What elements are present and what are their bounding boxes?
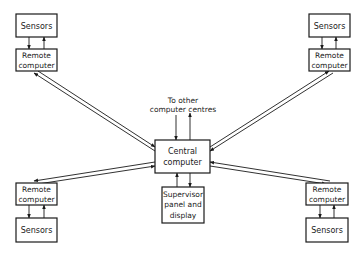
edge-central-external (176, 113, 190, 140)
edge-sensors-remote-br (320, 205, 334, 218)
sensors-top-right-node: Sensors (309, 14, 350, 37)
edge-sensors-remote-bl (29, 205, 44, 218)
edge-sensors-remote-tr (322, 37, 336, 49)
external-label-line-1: To other (167, 96, 199, 105)
edge-central-supervisor (177, 173, 190, 187)
edge-remote-br-central (210, 162, 330, 184)
remote-bl-label-line-1: Remote (22, 185, 51, 194)
edge-remote-bl-central (34, 162, 155, 184)
edge-remote-tl-central (34, 71, 155, 151)
remote-computer-top-left-node: Remote computer (16, 49, 57, 71)
sensors-top-left-node: Sensors (16, 14, 57, 37)
external-centres-label: To other computer centres (150, 96, 217, 114)
sensors-br-label: Sensors (311, 226, 343, 235)
sensors-tl-label: Sensors (21, 22, 53, 31)
external-label-line-2: computer centres (150, 105, 217, 114)
remote-tr-label-line-2: computer (311, 61, 348, 70)
remote-tl-label-line-1: Remote (22, 51, 51, 60)
remote-computer-bottom-left-node: Remote computer (16, 183, 57, 205)
remote-br-label-line-2: computer (309, 195, 346, 204)
remote-bl-label-line-2: computer (18, 195, 55, 204)
diagram-canvas: To other computer centres Central comput… (0, 0, 363, 255)
remote-computer-bottom-right-node: Remote computer (306, 183, 348, 205)
central-label-line-1: Central (168, 147, 197, 156)
edge-sensors-remote-tl (29, 37, 44, 49)
supervisor-label-line-3: display (170, 211, 197, 220)
supervisor-panel-node: Supervisor panel and display (162, 187, 204, 223)
remote-tl-label-line-2: computer (18, 61, 55, 70)
sensors-bottom-left-node: Sensors (16, 218, 57, 242)
sensors-bl-label: Sensors (21, 226, 53, 235)
supervisor-label-line-1: Supervisor (163, 190, 204, 199)
edge-remote-tr-central (210, 71, 333, 151)
sensors-bottom-right-node: Sensors (306, 218, 348, 242)
sensors-tr-label: Sensors (314, 22, 346, 31)
supervisor-label-line-2: panel and (164, 200, 202, 209)
central-label-line-2: computer (163, 158, 202, 167)
remote-tr-label-line-1: Remote (315, 51, 344, 60)
remote-br-label-line-1: Remote (313, 185, 342, 194)
central-computer-node: Central computer (155, 140, 210, 173)
remote-computer-top-right-node: Remote computer (309, 49, 350, 71)
